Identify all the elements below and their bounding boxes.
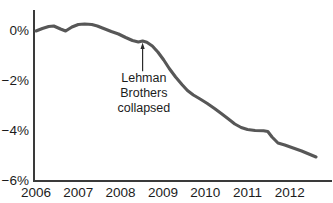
data-series-group [36,24,316,157]
x-tick-label: 2006 [21,185,51,200]
annotations-group: LehmanBrotherscollapsed [117,43,170,116]
x-tick-label: 2012 [275,185,305,200]
annotation-arrowhead-icon [140,43,144,50]
annotation-label-line: Brothers [120,86,167,100]
y-axis-tick-labels: 0%−2%−4%−6% [2,23,29,188]
x-tick-label: 2007 [63,185,93,200]
annotation-label-line: Lehman [121,71,166,85]
x-tick-label: 2011 [233,185,262,200]
y-tick-label: 0% [9,23,29,38]
chart-container: 0%−2%−4%−6% 2006200720082009201020112012… [0,0,333,203]
x-tick-label: 2008 [106,185,136,200]
data-line-series-1 [36,24,316,157]
axes-group [34,10,332,181]
x-tick-label: 2010 [190,185,220,200]
line-chart: 0%−2%−4%−6% 2006200720082009201020112012… [0,0,333,203]
y-tick-label: −2% [2,73,29,88]
x-tick-label: 2009 [148,185,178,200]
x-axis-tick-labels: 2006200720082009201020112012 [21,185,305,200]
annotation-label-lehman-brothers-collapsed: LehmanBrotherscollapsed [117,71,170,115]
annotation-label-line: collapsed [117,101,170,115]
y-tick-label: −4% [2,123,29,138]
axis-lines [34,10,332,181]
